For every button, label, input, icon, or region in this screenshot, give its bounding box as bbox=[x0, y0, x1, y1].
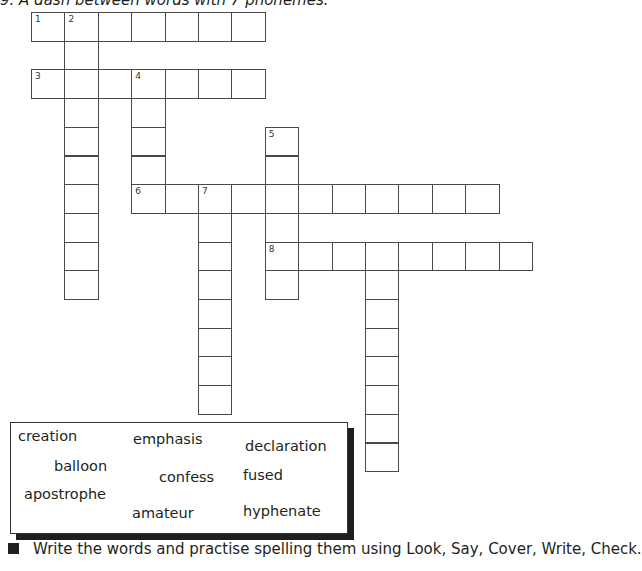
clue-number: 1 bbox=[35, 14, 41, 24]
crossword-cell[interactable] bbox=[365, 242, 399, 272]
crossword-cell[interactable] bbox=[198, 385, 232, 415]
crossword-cell[interactable] bbox=[165, 12, 199, 42]
crossword-cell[interactable] bbox=[265, 156, 299, 186]
square-bullet-icon bbox=[8, 543, 19, 554]
crossword-cell[interactable] bbox=[365, 443, 399, 473]
crossword-cell[interactable] bbox=[64, 127, 98, 157]
word-bank-item: apostrophe bbox=[24, 486, 106, 502]
crossword-cell[interactable] bbox=[231, 184, 265, 214]
crossword-cell[interactable] bbox=[332, 242, 366, 272]
crossword-cell[interactable] bbox=[131, 98, 165, 128]
crossword-cell[interactable] bbox=[131, 156, 165, 186]
crossword-cell[interactable] bbox=[398, 184, 432, 214]
crossword-cell[interactable] bbox=[432, 184, 466, 214]
crossword-cell[interactable] bbox=[198, 12, 232, 42]
crossword-cell[interactable] bbox=[98, 69, 132, 99]
word-bank-item: amateur bbox=[132, 505, 194, 521]
crossword-cell[interactable] bbox=[131, 12, 165, 42]
clue-number: 8 bbox=[269, 244, 275, 254]
crossword-cell[interactable] bbox=[64, 98, 98, 128]
crossword-cell[interactable] bbox=[398, 242, 432, 272]
crossword-cell[interactable] bbox=[98, 12, 132, 42]
crossword-cell[interactable]: 4 bbox=[131, 69, 165, 99]
crossword-cell[interactable] bbox=[198, 299, 232, 329]
crossword-cell[interactable] bbox=[198, 242, 232, 272]
instruction: Write the words and practise spelling th… bbox=[8, 540, 642, 558]
crossword-cell[interactable]: 7 bbox=[198, 184, 232, 214]
crossword-cell[interactable] bbox=[165, 69, 199, 99]
crossword-cell[interactable] bbox=[365, 328, 399, 358]
crossword-cell[interactable]: 2 bbox=[64, 12, 98, 42]
crossword-cell[interactable] bbox=[198, 270, 232, 300]
word-bank-item: balloon bbox=[54, 458, 107, 474]
crossword-cell[interactable] bbox=[298, 184, 332, 214]
crossword-cell[interactable]: 3 bbox=[31, 69, 65, 99]
crossword-cell[interactable] bbox=[198, 213, 232, 243]
crossword-cell[interactable] bbox=[198, 356, 232, 386]
crossword-cell[interactable] bbox=[265, 213, 299, 243]
crossword-cell[interactable] bbox=[64, 156, 98, 186]
crossword-cell[interactable] bbox=[64, 184, 98, 214]
crossword-cell[interactable] bbox=[365, 385, 399, 415]
crossword-cell[interactable]: 6 bbox=[131, 184, 165, 214]
crossword-cell[interactable]: 5 bbox=[265, 127, 299, 157]
clue-number: 5 bbox=[269, 129, 275, 139]
word-bank-item: creation bbox=[18, 428, 77, 444]
crossword-cell[interactable] bbox=[265, 270, 299, 300]
crossword-cell[interactable] bbox=[365, 356, 399, 386]
instruction-text: Write the words and practise spelling th… bbox=[33, 540, 642, 558]
crossword-cell[interactable] bbox=[64, 41, 98, 71]
crossword-cell[interactable] bbox=[499, 242, 533, 272]
clue-number: 3 bbox=[35, 71, 41, 81]
clue-number: 2 bbox=[68, 14, 74, 24]
crossword-cell[interactable] bbox=[332, 184, 366, 214]
crossword-cell[interactable] bbox=[298, 242, 332, 272]
crossword-cell[interactable] bbox=[165, 184, 199, 214]
crossword-cell[interactable]: 8 bbox=[265, 242, 299, 272]
clue-9-text: 9. A dash between words with 7 phonemes. bbox=[0, 0, 329, 9]
word-bank-item: hyphenate bbox=[243, 503, 321, 519]
crossword-cell[interactable] bbox=[365, 184, 399, 214]
crossword-cell[interactable] bbox=[432, 242, 466, 272]
crossword-cell[interactable] bbox=[465, 184, 499, 214]
crossword-cell[interactable] bbox=[265, 184, 299, 214]
clue-number: 7 bbox=[202, 186, 208, 196]
crossword-cell[interactable] bbox=[465, 242, 499, 272]
crossword-cell[interactable] bbox=[365, 299, 399, 329]
word-bank-item: declaration bbox=[245, 438, 327, 454]
crossword-cell[interactable]: 1 bbox=[31, 12, 65, 42]
crossword-cell[interactable] bbox=[131, 127, 165, 157]
crossword-cell[interactable] bbox=[198, 69, 232, 99]
crossword-cell[interactable] bbox=[64, 242, 98, 272]
crossword-cell[interactable] bbox=[231, 69, 265, 99]
word-bank-item: emphasis bbox=[133, 431, 202, 447]
crossword-cell[interactable] bbox=[64, 69, 98, 99]
crossword-cell[interactable] bbox=[198, 328, 232, 358]
crossword-cell[interactable] bbox=[64, 213, 98, 243]
crossword-cell[interactable] bbox=[64, 270, 98, 300]
crossword-cell[interactable] bbox=[365, 414, 399, 444]
crossword-cell[interactable] bbox=[365, 270, 399, 300]
crossword-cell[interactable] bbox=[231, 12, 265, 42]
clue-number: 4 bbox=[135, 71, 141, 81]
word-bank-item: confess bbox=[159, 469, 214, 485]
clue-number: 6 bbox=[135, 186, 141, 196]
word-bank-item: fused bbox=[243, 467, 283, 483]
